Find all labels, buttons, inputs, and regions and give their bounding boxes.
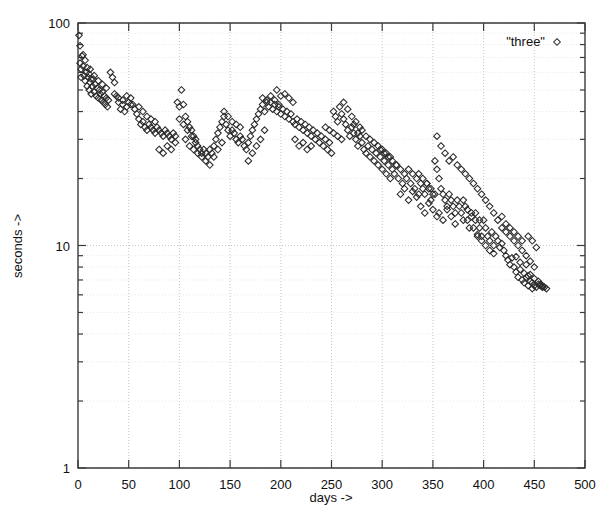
data-point-marker bbox=[438, 143, 445, 150]
data-point-marker bbox=[434, 166, 441, 173]
data-point-marker bbox=[474, 185, 481, 192]
legend-label-three: "three" bbox=[506, 34, 545, 49]
data-point-marker bbox=[476, 217, 483, 224]
x-axis-title: days -> bbox=[310, 490, 353, 505]
legend-marker-diamond-icon bbox=[554, 39, 561, 46]
data-point-marker bbox=[417, 203, 424, 210]
data-point-marker bbox=[486, 237, 493, 244]
minor-gridlines bbox=[78, 33, 585, 401]
data-point-marker bbox=[434, 133, 441, 140]
data-point-marker bbox=[113, 93, 120, 100]
data-point-marker bbox=[470, 180, 477, 187]
data-point-marker bbox=[452, 221, 459, 228]
data-point-marker bbox=[440, 217, 447, 224]
data-point-marker bbox=[490, 250, 497, 257]
legend-diamond-icon bbox=[554, 39, 561, 46]
data-points bbox=[76, 32, 550, 292]
data-point-marker bbox=[421, 210, 428, 217]
data-point-marker bbox=[466, 225, 473, 232]
data-point-marker bbox=[519, 247, 526, 254]
data-point-marker bbox=[219, 139, 226, 146]
data-point-marker bbox=[515, 242, 522, 249]
x-tick-label: 100 bbox=[169, 477, 191, 492]
data-point-marker bbox=[249, 150, 256, 157]
data-point-marker bbox=[144, 113, 151, 120]
x-tick-label: 150 bbox=[219, 477, 241, 492]
data-point-marker bbox=[322, 124, 329, 131]
chart-container: 050100150200250300350400450500 110100 da… bbox=[0, 0, 610, 518]
x-tick-label: 300 bbox=[371, 477, 393, 492]
y-axis-title: seconds -> bbox=[10, 214, 25, 278]
y-tick-label: 100 bbox=[48, 16, 70, 31]
major-gridlines bbox=[78, 23, 585, 468]
x-tick-label: 50 bbox=[121, 477, 135, 492]
data-point-marker bbox=[490, 242, 497, 249]
x-tick-label: 500 bbox=[574, 477, 596, 492]
data-point-marker bbox=[486, 203, 493, 210]
data-point-marker bbox=[460, 217, 467, 224]
data-point-marker bbox=[261, 127, 268, 134]
data-point-marker bbox=[391, 171, 398, 178]
data-point-marker bbox=[180, 121, 187, 128]
data-point-marker bbox=[494, 237, 501, 244]
data-point-marker bbox=[442, 150, 449, 157]
scatter-plot: 050100150200250300350400450500 110100 da… bbox=[0, 0, 610, 518]
data-point-marker bbox=[348, 113, 355, 120]
chart-legend: "three" bbox=[506, 34, 560, 49]
x-tick-label: 450 bbox=[523, 477, 545, 492]
data-point-marker bbox=[253, 143, 260, 150]
data-point-marker bbox=[480, 217, 487, 224]
data-point-marker bbox=[407, 180, 414, 187]
data-point-marker bbox=[486, 247, 493, 254]
data-point-marker bbox=[245, 158, 252, 165]
data-point-marker bbox=[314, 130, 321, 137]
x-tick-label: 0 bbox=[74, 477, 81, 492]
x-tick-label: 200 bbox=[270, 477, 292, 492]
data-point-marker bbox=[330, 130, 337, 137]
data-point-marker bbox=[405, 197, 412, 204]
y-tick-label: 10 bbox=[56, 239, 70, 254]
y-tick-label: 1 bbox=[63, 461, 70, 476]
data-point-marker bbox=[397, 191, 404, 198]
data-point-marker bbox=[237, 124, 244, 131]
x-tick-label: 350 bbox=[422, 477, 444, 492]
x-tick-label: 400 bbox=[473, 477, 495, 492]
y-axis-tick-labels: 110100 bbox=[48, 16, 70, 476]
data-point-marker bbox=[326, 127, 333, 134]
data-point-marker bbox=[490, 210, 497, 217]
data-point-marker bbox=[233, 121, 240, 128]
